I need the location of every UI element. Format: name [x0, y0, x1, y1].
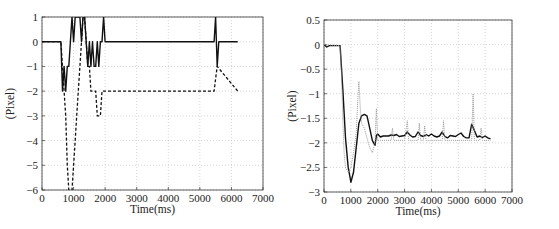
y-tick-label: −2: [308, 137, 320, 149]
y-tick-label: −6: [26, 184, 38, 196]
x-tick-label: 5000: [189, 192, 212, 204]
solid-series-line: [324, 45, 491, 183]
y-tick-label: −2: [26, 85, 38, 97]
y-tick-label: −4: [26, 135, 38, 147]
y-tick-label: −1: [26, 60, 38, 72]
x-tick-label: 1000: [63, 192, 86, 204]
y-tick-label: −2.5: [300, 161, 320, 173]
figure: 0100020003000400050006000700010−1−2−3−4−…: [0, 0, 559, 229]
dashed-series-line: [42, 17, 238, 190]
x-tick-label: 0: [321, 194, 327, 206]
x-tick-label: 1000: [340, 194, 363, 206]
x-tick-label: 6000: [220, 192, 243, 204]
y-tick-label: 1: [33, 11, 39, 23]
x-tick-label: 2000: [367, 194, 390, 206]
x-tick-label: 7000: [252, 192, 275, 204]
x-tick-label: 7000: [501, 194, 524, 206]
y-tick-label: −5: [26, 159, 38, 171]
solid-series-line: [42, 17, 238, 91]
axes-frame: [42, 17, 263, 190]
x-axis-label: Time(ms): [130, 203, 175, 216]
x-tick-label: 5000: [447, 194, 470, 206]
y-tick-label: 0: [33, 36, 39, 48]
y-tick-label: −1.5: [300, 112, 320, 124]
axes-frame: [324, 20, 512, 192]
left-plot: 0100020003000400050006000700010−1−2−3−4−…: [4, 11, 275, 216]
y-tick-label: −3: [26, 110, 38, 122]
y-axis-label: (Pixel): [4, 88, 17, 119]
y-tick-label: 0.5: [306, 14, 320, 26]
y-tick-label: 0: [315, 39, 321, 51]
x-tick-label: 6000: [474, 194, 497, 206]
y-axis-label: (Pixel): [286, 90, 299, 121]
right-plot: 010002000300040005000600070000.50−0.5−1−…: [286, 14, 524, 218]
y-tick-label: −0.5: [300, 63, 320, 75]
left-chart: 0100020003000400050006000700010−1−2−3−4−…: [0, 0, 559, 229]
x-tick-label: 0: [39, 192, 45, 204]
dotted-series-line: [324, 45, 491, 173]
x-axis-label: Time(ms): [396, 205, 441, 218]
x-tick-label: 2000: [94, 192, 117, 204]
y-tick-label: −1: [308, 88, 320, 100]
y-tick-label: −3: [308, 186, 320, 198]
